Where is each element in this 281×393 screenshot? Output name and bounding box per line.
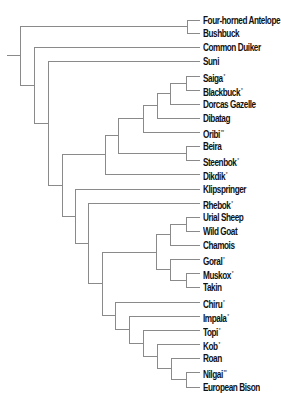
taxon-name: Bushbuck xyxy=(203,27,239,39)
taxon-name: European Bison xyxy=(203,381,260,393)
taxon-label-european-bison: European Bison xyxy=(203,381,260,393)
taxon-label-steenbok: Steenbok* xyxy=(203,154,239,166)
taxon-label-topi: Topi* xyxy=(203,324,220,336)
taxon-label-blackbuck: Blackbuck* xyxy=(203,84,242,96)
taxon-name: Dikdik xyxy=(203,170,225,182)
taxon-label-oribi: Oribi** xyxy=(203,126,224,138)
taxon-label-muskox: Muskox* xyxy=(203,267,233,279)
taxon-label-kob: Kob* xyxy=(203,338,220,350)
taxon-label-saiga: Saiga* xyxy=(203,70,225,82)
taxon-name: Chiru xyxy=(203,298,222,310)
footnote-mark: * xyxy=(219,327,220,333)
taxon-name: Oribi xyxy=(203,128,220,140)
taxon-name: Roan xyxy=(203,352,222,364)
footnote-mark: * xyxy=(226,171,227,177)
taxon-label-dibatag: Dibatag xyxy=(203,112,230,124)
taxon-name: Goral xyxy=(203,255,222,267)
taxon-name: Takin xyxy=(203,281,222,293)
taxon-name: Chamois xyxy=(203,239,235,251)
footnote-mark: * xyxy=(223,73,224,79)
taxon-name: Klipspringer xyxy=(203,183,246,195)
footnote-mark: * xyxy=(227,313,228,319)
taxon-label-klipspringer: Klipspringer xyxy=(203,183,246,195)
footnote-mark: * xyxy=(232,270,233,276)
taxon-name: Beira xyxy=(203,140,221,152)
taxon-name: Steenbok xyxy=(203,156,236,168)
taxon-label-bushbuck: Bushbuck xyxy=(203,27,239,39)
footnote-mark: * xyxy=(223,299,224,305)
taxon-name: Saiga xyxy=(203,72,223,84)
taxon-name: Dorcas Gazelle xyxy=(203,98,256,110)
taxon-label-roan: Roan xyxy=(203,352,222,364)
taxon-name: Dibatag xyxy=(203,112,230,124)
taxon-name: Four-horned Antelope xyxy=(203,14,280,26)
footnote-mark: * xyxy=(223,256,224,262)
taxon-label-wild-goat: Wild Goat xyxy=(203,225,237,237)
taxon-label-urial-sheep: Urial Sheep xyxy=(203,211,243,223)
footnote-mark: * xyxy=(231,200,232,206)
taxon-label-suni: Suni xyxy=(203,55,219,67)
taxon-name: Nilgai xyxy=(203,368,223,380)
taxon-label-four-horned-antelope: Four-horned Antelope xyxy=(203,14,280,26)
taxon-label-chamois: Chamois xyxy=(203,239,235,251)
taxon-label-dikdik: Dikdik* xyxy=(203,168,227,180)
taxon-name: Suni xyxy=(203,55,219,67)
footnote-mark: ** xyxy=(221,129,224,135)
taxon-name: Kob xyxy=(203,340,218,352)
taxon-label-goral: Goral* xyxy=(203,253,224,265)
taxon-name: Topi xyxy=(203,326,218,338)
phylogenetic-tree xyxy=(0,0,281,393)
taxon-name: Wild Goat xyxy=(203,225,237,237)
taxon-name: Rhebok xyxy=(203,199,230,211)
taxon-name: Urial Sheep xyxy=(203,211,243,223)
taxon-label-rhebok: Rhebok* xyxy=(203,197,233,209)
taxon-name: Impala xyxy=(203,312,226,324)
taxon-label-takin: Takin xyxy=(203,281,222,293)
taxon-label-beira: Beira xyxy=(203,140,221,152)
footnote-mark: * xyxy=(218,341,219,347)
taxon-label-impala: Impala* xyxy=(203,310,229,322)
footnote-mark: * xyxy=(237,157,238,163)
taxon-label-common-duiker: Common Duiker xyxy=(203,41,261,53)
footnote-mark: ** xyxy=(224,369,227,375)
taxon-name: Common Duiker xyxy=(203,41,261,53)
taxon-label-dorcas-gazelle: Dorcas Gazelle xyxy=(203,98,256,110)
footnote-mark: * xyxy=(241,87,242,93)
taxon-label-nilgai: Nilgai** xyxy=(203,366,226,378)
taxon-name: Blackbuck xyxy=(203,86,240,98)
taxon-label-chiru: Chiru* xyxy=(203,296,224,308)
taxon-name: Muskox xyxy=(203,269,231,281)
